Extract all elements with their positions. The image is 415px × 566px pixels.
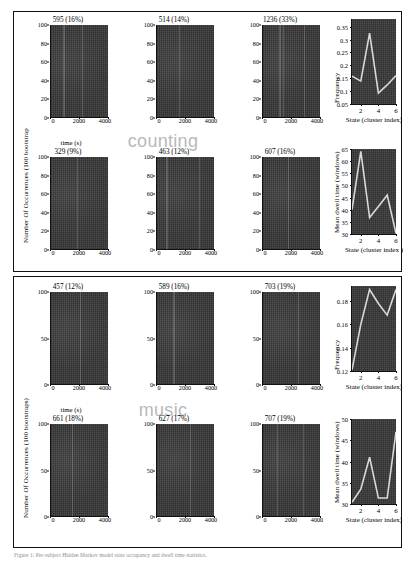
line-chart-plot-area	[352, 149, 396, 234]
histogram-y-ticks: 020406080100	[134, 157, 155, 250]
figure-caption: Figure 1: Per-subject Hidden Markov mode…	[14, 552, 402, 559]
histogram-plot-area	[156, 157, 214, 250]
y-tick-label: 0.16	[326, 321, 348, 328]
histogram-y-ticks: 020406080100	[28, 25, 49, 118]
x-axis-label-music: time (s)	[61, 406, 82, 413]
histogram-cell: 707 (19%) 050100 020004000	[240, 415, 320, 530]
x-tick-label: 2	[359, 237, 362, 244]
histogram-noise	[262, 424, 320, 517]
y-tick-label: 100	[250, 154, 259, 160]
x-tick-label: 0	[51, 118, 54, 124]
histogram-plot-area	[262, 25, 320, 118]
histogram-y-ticks: 050100	[240, 292, 261, 385]
histogram-cell: 514 (14%) 020406080100 020004000	[134, 16, 214, 131]
histogram-noise	[156, 424, 214, 517]
histogram-noise	[50, 292, 108, 385]
y-tick-label: 100	[144, 289, 153, 295]
histogram-x-ticks: 020004000	[156, 250, 214, 260]
histogram-x-ticks: 020004000	[262, 385, 320, 395]
x-tick-label: 0	[157, 250, 160, 256]
histogram-plot-area	[50, 292, 108, 385]
x-axis-label: State (cluster index)	[346, 116, 402, 124]
histogram-cell: 463 (12%) 020406080100 020004000	[134, 148, 214, 263]
histogram-plot-area	[156, 424, 214, 517]
line-series	[352, 149, 396, 234]
x-axis-label: State (cluster index )	[345, 246, 403, 254]
y-tick-label: 100	[144, 421, 153, 427]
x-tick-label: 4000	[311, 118, 323, 124]
x-tick-label: 4000	[205, 118, 217, 124]
line-series	[352, 286, 396, 371]
x-axis-label: State (cluster index)	[346, 383, 402, 391]
figure-root: Number Of Occurrences (100 bootstrap cou…	[0, 0, 415, 566]
histogram-x-ticks: 020004000	[50, 250, 108, 260]
x-tick-label: 2	[359, 107, 362, 114]
y-tick-label: 0.3	[326, 36, 348, 43]
histogram-noise	[262, 25, 320, 118]
histogram-plot-area	[262, 292, 320, 385]
histogram-x-ticks: 020004000	[156, 118, 214, 128]
histogram-y-ticks: 050100	[28, 292, 49, 385]
histogram-cell: 627 (17%) 050100 020004000	[134, 415, 214, 530]
x-tick-label: 4	[377, 237, 380, 244]
histogram-plot-area	[262, 424, 320, 517]
histogram-y-ticks: 020406080100	[134, 25, 155, 118]
x-tick-label: 2	[359, 374, 362, 381]
histogram-y-ticks: 050100	[134, 424, 155, 517]
x-tick-label: 4000	[311, 517, 323, 523]
x-tick-label: 4	[377, 507, 380, 514]
line-series	[352, 19, 396, 104]
x-tick-label: 4000	[99, 517, 111, 523]
y-tick-label: 0.25	[326, 49, 348, 56]
y-tick-label: 0.2	[326, 62, 348, 69]
line-series	[352, 419, 396, 504]
y-tick-label: 100	[38, 154, 47, 160]
histogram-x-ticks: 020004000	[262, 250, 320, 260]
x-tick-label: 0	[157, 517, 160, 523]
x-tick-label: 0	[263, 250, 266, 256]
histogram-cell: 1236 (33%) 020406080100 020004000	[240, 16, 320, 131]
histogram-cell: 703 (19%) 050100 020004000	[240, 283, 320, 398]
y-tick-label: 0.35	[326, 23, 348, 30]
histogram-cell: 457 (12%) 050100 020004000	[28, 283, 108, 398]
line-chart-music-frequency: 0.120.140.160.18246State (cluster index)…	[326, 283, 398, 401]
y-tick-label: 100	[38, 289, 47, 295]
y-tick-label: 100	[38, 22, 47, 28]
x-tick-label: 2	[359, 507, 362, 514]
histogram-noise	[50, 25, 108, 118]
y-axis-label: Frequency	[333, 340, 341, 370]
histogram-x-ticks: 020004000	[156, 385, 214, 395]
histogram-plot-area	[156, 292, 214, 385]
histogram-plot-area	[50, 424, 108, 517]
y-axis-label: Mean dwell time (windows)	[333, 421, 341, 503]
y-tick-label: 100	[38, 421, 47, 427]
histogram-x-ticks: 020004000	[262, 517, 320, 527]
x-tick-label: 0	[157, 118, 160, 124]
x-tick-label: 4000	[311, 250, 323, 256]
histogram-y-ticks: 020406080100	[240, 25, 261, 118]
histogram-noise	[262, 292, 320, 385]
x-tick-label: 4000	[205, 385, 217, 391]
line-chart-plot-area	[352, 419, 396, 504]
histogram-y-ticks: 020406080100	[240, 157, 261, 250]
line-chart-counting-dwell: 3035404550556065246State (cluster index …	[326, 146, 398, 264]
x-tick-label: 0	[263, 517, 266, 523]
x-tick-label: 4000	[311, 385, 323, 391]
x-tick-label: 6	[394, 237, 397, 244]
line-chart-music-dwell: 3035404550246State (cluster index)Mean d…	[326, 416, 398, 534]
histogram-x-ticks: 020004000	[50, 118, 108, 128]
histogram-noise	[262, 157, 320, 250]
x-axis-label: State (cluster index)	[346, 516, 402, 524]
histogram-plot-area	[50, 25, 108, 118]
histogram-noise	[50, 424, 108, 517]
histogram-y-ticks: 050100	[240, 424, 261, 517]
line-chart-counting-frequency: 0.050.10.150.20.250.30.35246State (clust…	[326, 16, 398, 134]
x-tick-label: 0	[51, 250, 54, 256]
histogram-cell: 661 (18%) 050100 020004000	[28, 415, 108, 530]
x-tick-label: 6	[394, 107, 397, 114]
x-tick-label: 0	[51, 385, 54, 391]
histogram-noise	[156, 292, 214, 385]
x-tick-label: 0	[157, 385, 160, 391]
y-axis-label: Mean dwell time (windows)	[333, 151, 341, 233]
histogram-cell: 589 (16%) 050100 020004000	[134, 283, 214, 398]
